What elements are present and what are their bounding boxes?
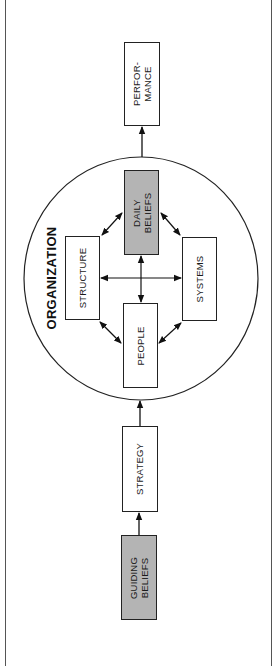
organization-diagram: ORGANIZATION PERFOR- MANCE DAILY BELIEFS…: [0, 0, 280, 666]
node-daily-beliefs: DAILY BELIEFS: [124, 170, 159, 255]
arrow-daily-beliefs-systems: [161, 213, 180, 235]
node-systems: SYSTEMS: [182, 237, 217, 321]
node-guiding-beliefs-label: GUIDING BELIEFS: [129, 556, 150, 598]
node-guiding-beliefs: GUIDING BELIEFS: [121, 535, 157, 620]
node-structure-label: STRUCTURE: [77, 248, 88, 308]
arrow-structure-daily-beliefs: [102, 213, 122, 235]
node-strategy: STRATEGY: [122, 426, 158, 512]
node-performance: PERFOR- MANCE: [124, 42, 160, 126]
organization-label: ORGANIZATION: [44, 226, 59, 329]
node-structure: STRUCTURE: [65, 236, 100, 320]
arrow-people-systems: [159, 323, 181, 343]
node-people-label: PEOPLE: [135, 326, 146, 365]
node-daily-beliefs-label: DAILY BELIEFS: [131, 192, 152, 232]
arrow-structure-people: [100, 322, 121, 343]
node-performance-label: PERFOR- MANCE: [132, 62, 153, 106]
node-people: PEOPLE: [123, 303, 158, 388]
node-strategy-label: STRATEGY: [135, 443, 146, 495]
node-systems-label: SYSTEMS: [194, 256, 205, 303]
